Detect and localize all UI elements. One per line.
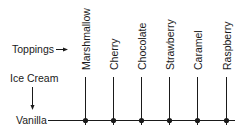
node-vanilla-raspberry [224,118,229,123]
topping-lines [86,77,227,125]
diagram-lines [0,0,246,135]
node-vanilla-strawberry [167,118,172,123]
node-vanilla-caramel [195,118,200,123]
down-arrow-icon [31,87,35,110]
node-vanilla-chocolate [139,118,144,123]
node-vanilla-cherry [111,118,116,123]
topping-combination-diagram: Toppings Ice Cream Vanilla Marshmallow C… [0,0,246,135]
right-arrow-icon [56,48,68,52]
node-vanilla-marshmallow [83,118,88,123]
